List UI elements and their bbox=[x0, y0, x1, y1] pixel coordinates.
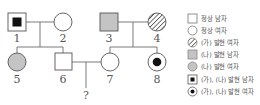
label-7: 7 bbox=[107, 73, 114, 86]
pedigree-lines bbox=[17, 22, 157, 88]
legend-item-normal-male: 정상 남자 bbox=[187, 12, 260, 24]
legend-label: (가), (나) 발현 여자 bbox=[201, 87, 253, 96]
legend-item-normal-female: 정상 여자 bbox=[187, 24, 260, 36]
individual-3 bbox=[100, 13, 118, 31]
legend-item-both-female: (가), (나) 발현 여자 bbox=[187, 85, 260, 97]
individual-8 bbox=[148, 53, 166, 71]
individual-1 bbox=[8, 13, 26, 31]
legend-label: (가), (나) 발현 남자 bbox=[201, 75, 253, 84]
label-1: 1 bbox=[14, 32, 21, 45]
individual-5 bbox=[8, 53, 26, 71]
label-5: 5 bbox=[14, 73, 21, 86]
legend-label: 정상 남자 bbox=[201, 14, 227, 23]
legend-label: (나) 발현 여자 bbox=[201, 62, 239, 71]
circle-dot-icon bbox=[187, 86, 198, 97]
label-4: 4 bbox=[154, 32, 161, 45]
legend-item-ga-female: (가) 발현 여자 bbox=[187, 36, 260, 48]
individual-4 bbox=[148, 13, 166, 31]
label-6: 6 bbox=[60, 73, 67, 86]
individual-6 bbox=[55, 53, 72, 70]
circle-hatched-icon bbox=[187, 37, 198, 48]
label-2: 2 bbox=[60, 32, 67, 45]
label-8: 8 bbox=[154, 73, 161, 86]
individual-7 bbox=[101, 53, 119, 71]
unknown-child-label: ? bbox=[83, 89, 89, 102]
legend-item-na-female: (나) 발현 여자 bbox=[187, 61, 260, 73]
legend-item-both-male: (가), (나) 발현 남자 bbox=[187, 73, 260, 85]
legend-label: (나) 발현 남자 bbox=[201, 50, 239, 59]
legend-item-na-male: (나) 발현 남자 bbox=[187, 49, 260, 61]
individual-2 bbox=[54, 13, 72, 31]
circle-gray-icon bbox=[187, 61, 198, 72]
circle-empty-icon bbox=[187, 25, 198, 36]
square-dot-icon bbox=[187, 74, 198, 85]
legend-label: (가) 발현 여자 bbox=[201, 38, 239, 47]
pedigree-chart: 1 2 3 4 5 6 7 8 ? bbox=[0, 0, 185, 105]
square-empty-icon bbox=[187, 13, 198, 24]
label-3: 3 bbox=[106, 32, 113, 45]
legend: 정상 남자 정상 여자 (가) 발현 여자 (나) 발현 남자 (나) 발현 여… bbox=[187, 12, 260, 97]
square-gray-icon bbox=[187, 49, 198, 60]
legend-label: 정상 여자 bbox=[201, 26, 227, 35]
